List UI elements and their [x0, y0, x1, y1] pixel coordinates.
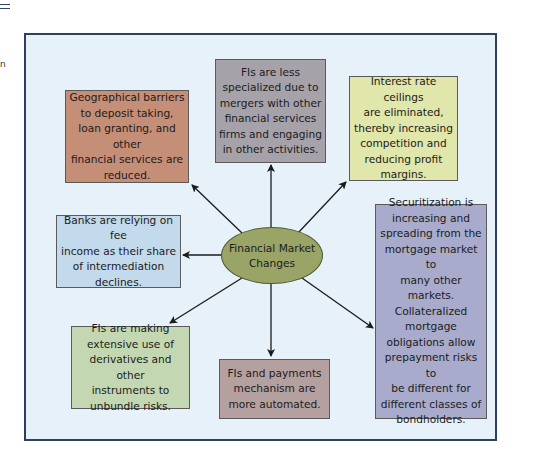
node-less-specialized-text: FIs are less specialized due to mergers …: [219, 65, 322, 158]
node-derivatives-text: FIs are making extensive use of derivati…: [75, 321, 186, 414]
node-derivatives: FIs are making extensive use of derivati…: [71, 326, 190, 409]
node-fee-income-text: Banks are relying on fee income as their…: [60, 213, 177, 291]
node-geographic: Geographical barriers to deposit taking,…: [65, 90, 189, 183]
node-rate-ceilings: Interest rate ceilings are eliminated, t…: [349, 76, 458, 181]
node-rate-ceilings-text: Interest rate ceilings are eliminated, t…: [353, 74, 454, 183]
arrow-to-securitization: [302, 278, 373, 328]
arrow-to-rate-ceilings: [298, 182, 346, 233]
node-securitization: Securitization is increasing and spreadi…: [375, 204, 487, 419]
arrow-to-geographic: [192, 185, 242, 233]
node-securitization-text: Securitization is increasing and spreadi…: [379, 195, 483, 428]
node-payments: FIs and payments mechanism are more auto…: [219, 359, 330, 419]
node-less-specialized: FIs are less specialized due to mergers …: [215, 59, 326, 163]
center-node: Financial Market Changes: [221, 227, 323, 284]
center-node-text: Financial Market Changes: [229, 241, 315, 271]
node-geographic-text: Geographical barriers to deposit taking,…: [69, 90, 185, 183]
node-payments-text: FIs and payments mechanism are more auto…: [227, 366, 321, 413]
node-fee-income: Banks are relying on fee income as their…: [56, 215, 181, 288]
